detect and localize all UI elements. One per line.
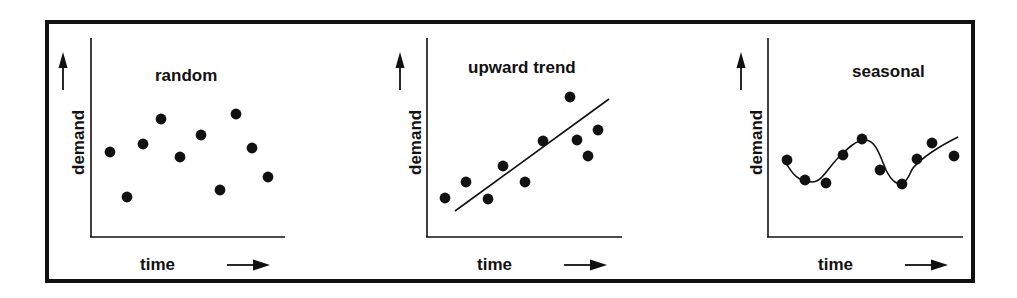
x-axis-arrow-upward	[564, 260, 607, 271]
axis-label-time-upward: time	[477, 256, 512, 273]
data-point	[583, 151, 594, 162]
data-point	[138, 139, 149, 150]
data-point	[175, 152, 186, 163]
panel-title-upward-trend: upward trend	[468, 59, 576, 76]
data-point	[263, 172, 274, 183]
data-point	[565, 92, 576, 103]
axis-label-time-seasonal: time	[818, 256, 853, 273]
panel-random: random demand time	[0, 0, 340, 298]
data-point	[461, 177, 472, 188]
data-point	[949, 151, 960, 162]
data-points-random	[105, 109, 274, 203]
data-point	[821, 178, 832, 189]
data-point	[538, 136, 549, 147]
data-point	[572, 135, 583, 146]
axis-label-time-random: time	[140, 256, 175, 273]
data-point	[156, 114, 167, 125]
panel-title-seasonal: seasonal	[852, 63, 925, 80]
data-point	[927, 138, 938, 149]
panel-title-random: random	[155, 67, 217, 84]
x-axis-arrow-seasonal	[905, 260, 948, 271]
data-point	[122, 192, 133, 203]
plot-upward-trend	[336, 0, 676, 298]
plot-random	[0, 0, 340, 298]
data-point	[520, 177, 531, 188]
data-points-upward	[440, 92, 604, 205]
axis-label-demand-upward: demand	[407, 110, 424, 175]
data-point	[247, 143, 258, 154]
data-point	[800, 175, 811, 186]
y-axis-arrow-upward	[396, 52, 405, 90]
y-axis-arrow-random	[59, 52, 68, 90]
data-point	[215, 185, 226, 196]
data-point	[483, 194, 494, 205]
plot-seasonal	[677, 0, 1017, 298]
demand-patterns-figure: random demand time upward trend demand t…	[0, 0, 1017, 298]
data-point	[782, 155, 793, 166]
x-axis-arrow-random	[227, 260, 270, 271]
data-point	[897, 179, 908, 190]
data-point	[857, 134, 868, 145]
data-point	[440, 193, 451, 204]
y-axis-arrow-seasonal	[737, 52, 746, 90]
data-point	[105, 147, 116, 158]
axis-label-demand-seasonal: demand	[748, 110, 765, 175]
data-point	[838, 150, 849, 161]
data-point	[498, 161, 509, 172]
panel-seasonal: seasonal demand time	[677, 0, 1017, 298]
data-point	[196, 130, 207, 141]
panel-upward-trend: upward trend demand time	[336, 0, 676, 298]
data-point	[875, 165, 886, 176]
axis-label-demand-random: demand	[70, 110, 87, 175]
data-point	[593, 125, 604, 136]
data-point	[912, 154, 923, 165]
data-point	[231, 109, 242, 120]
